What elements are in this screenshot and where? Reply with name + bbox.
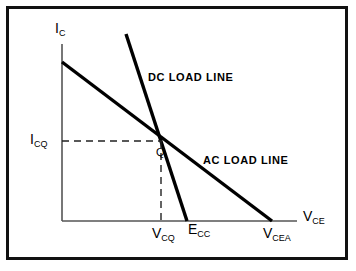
x-axis-label-subscript: CE (312, 216, 325, 226)
tick-label-vcea: VCEA (263, 226, 291, 240)
dc-load-line-label: DC LOAD LINE (148, 72, 233, 83)
tick-label-vcea-subscript: CEA (272, 233, 291, 243)
tick-label-ecc: ECC (188, 222, 210, 236)
tick-label-vcq: VCQ (152, 226, 175, 240)
tick-label-vcea-base: V (263, 225, 272, 241)
ac-load-line-label: AC LOAD LINE (203, 155, 288, 166)
y-axis-label-subscript: C (59, 28, 66, 38)
q-point-label: Q (156, 147, 165, 158)
figure-root: IC VCE ICQ VCQ ECC VCEA DC LOAD LINE AC … (0, 0, 356, 271)
y-axis-label: IC (55, 21, 65, 35)
x-axis-label: VCE (303, 209, 325, 223)
tick-label-vcq-subscript: CQ (161, 233, 175, 243)
caption-strip (0, 264, 356, 271)
x-axis-label-base: V (303, 208, 312, 224)
load-line-plot (0, 0, 356, 271)
dc-load-line (126, 34, 187, 221)
tick-label-ecc-subscript: CC (197, 229, 210, 239)
tick-label-icq-subscript: CQ (34, 139, 48, 149)
ac-load-line (62, 62, 272, 221)
tick-label-ecc-base: E (188, 221, 197, 237)
tick-label-icq: ICQ (30, 132, 47, 146)
tick-label-vcq-base: V (152, 225, 161, 241)
